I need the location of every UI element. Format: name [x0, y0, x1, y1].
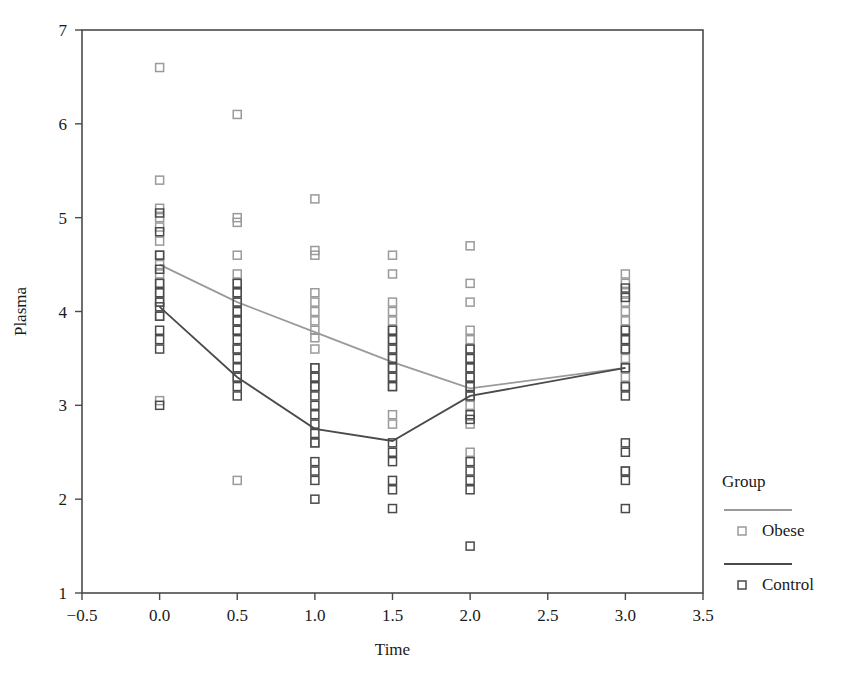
y-axis-tick-label: 2 [59, 490, 68, 509]
data-point-marker [466, 326, 474, 334]
data-point-marker [156, 312, 164, 320]
legend: GroupObeseControl [722, 472, 814, 594]
y-axis-tick-label: 3 [59, 396, 68, 415]
data-point-marker [621, 383, 629, 391]
data-point-marker [311, 458, 319, 466]
data-point-marker [389, 383, 397, 391]
data-point-marker [233, 279, 241, 287]
data-point-marker [311, 429, 319, 437]
data-point-marker [466, 345, 474, 353]
data-point-marker [466, 345, 474, 353]
data-point-marker [621, 439, 629, 447]
data-point-marker [233, 326, 241, 334]
data-point-marker [233, 270, 241, 278]
data-point-marker [233, 364, 241, 372]
data-point-marker [621, 336, 629, 344]
data-point-marker [311, 467, 319, 475]
data-point-marker [466, 486, 474, 494]
x-axis-tick-label: 2.5 [537, 606, 558, 625]
data-point-marker [389, 476, 397, 484]
data-point-marker [233, 317, 241, 325]
data-point-marker [389, 458, 397, 466]
data-point-marker [621, 476, 629, 484]
data-point-marker [311, 195, 319, 203]
data-series-layer [156, 64, 630, 551]
data-point-marker [233, 476, 241, 484]
data-point-marker [466, 354, 474, 362]
data-point-marker [389, 373, 397, 381]
chart-figure: −0.50.00.51.01.52.02.53.03.51234567TimeP… [0, 0, 842, 675]
data-point-marker [389, 383, 397, 391]
data-point-marker [233, 251, 241, 259]
legend-item-obese[interactable]: Obese [724, 510, 804, 540]
data-point-marker [621, 317, 629, 325]
data-point-marker [156, 289, 164, 297]
data-point-marker [621, 354, 629, 362]
data-point-marker [466, 476, 474, 484]
data-point-marker [389, 336, 397, 344]
data-point-marker [621, 326, 629, 334]
data-point-marker [466, 458, 474, 466]
data-point-marker [156, 336, 164, 344]
data-point-marker [466, 364, 474, 372]
data-point-marker [156, 176, 164, 184]
plot-frame [82, 30, 703, 593]
series-control [156, 209, 630, 550]
data-point-marker [311, 373, 319, 381]
data-point-marker [233, 289, 241, 297]
y-axis-tick-label: 6 [59, 115, 68, 134]
data-point-marker [466, 336, 474, 344]
data-point-marker [156, 312, 164, 320]
data-point-marker [389, 298, 397, 306]
data-point-marker [233, 383, 241, 391]
x-axis-tick-label: 2.0 [460, 606, 481, 625]
data-point-marker [466, 467, 474, 475]
data-point-marker [156, 251, 164, 259]
legend-item-label: Obese [762, 521, 804, 540]
series-obese [156, 64, 630, 485]
data-point-marker [233, 336, 241, 344]
data-point-marker [621, 336, 629, 344]
x-axis-tick-label: −0.5 [67, 606, 98, 625]
x-axis-tick-label: 3.0 [615, 606, 636, 625]
data-point-marker [389, 336, 397, 344]
data-point-marker [311, 308, 319, 316]
data-point-marker [466, 242, 474, 250]
data-point-marker [311, 476, 319, 484]
data-point-marker [156, 289, 164, 297]
y-axis-tick-label: 5 [59, 209, 68, 228]
data-point-marker [621, 448, 629, 456]
legend-item-control[interactable]: Control [724, 564, 814, 594]
x-axis-tick-label: 1.0 [304, 606, 325, 625]
axis-label-layer: −0.50.00.51.01.52.02.53.03.51234567TimeP… [11, 21, 714, 659]
legend-marker-swatch [738, 527, 746, 535]
data-point-marker [389, 326, 397, 334]
data-point-marker [156, 64, 164, 72]
data-point-marker [311, 298, 319, 306]
data-point-marker [389, 448, 397, 456]
x-axis-tick-label: 3.5 [692, 606, 713, 625]
data-point-marker [311, 364, 319, 372]
data-point-marker [621, 467, 629, 475]
x-axis-tick-label: 0.5 [227, 606, 248, 625]
x-axis-tick-label: 0.0 [149, 606, 170, 625]
data-point-marker [233, 345, 241, 353]
data-point-marker [311, 289, 319, 297]
data-point-marker [233, 289, 241, 297]
legend-marker-swatch [738, 581, 746, 589]
data-point-marker [156, 279, 164, 287]
data-point-marker [389, 345, 397, 353]
plasma-vs-time-scatter-plot: −0.50.00.51.01.52.02.53.03.51234567TimeP… [0, 0, 842, 675]
data-point-marker [466, 542, 474, 550]
data-point-marker [311, 345, 319, 353]
data-point-marker [389, 411, 397, 419]
data-point-marker [621, 326, 629, 334]
data-point-marker [389, 505, 397, 513]
data-point-marker [466, 448, 474, 456]
data-point-marker [156, 251, 164, 259]
data-point-marker [156, 237, 164, 245]
data-point-marker [621, 505, 629, 513]
data-point-marker [311, 392, 319, 400]
data-point-marker [311, 439, 319, 447]
data-point-marker [466, 279, 474, 287]
